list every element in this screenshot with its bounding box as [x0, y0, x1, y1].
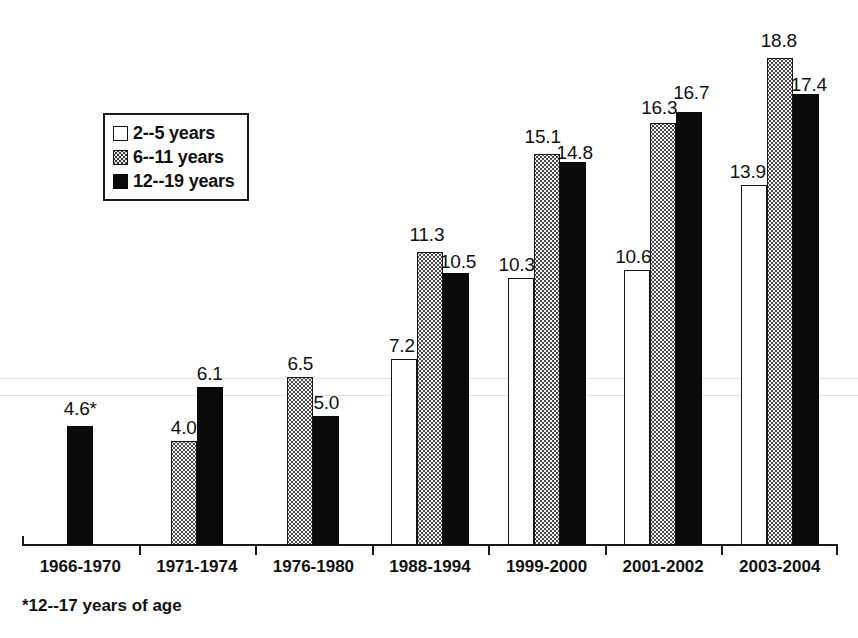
- bar-2003-2004-2-5-years: [741, 185, 767, 545]
- chart-legend: 2--5 years 6--11 years 12--19 years: [103, 113, 249, 201]
- x-axis-tick: [255, 546, 257, 555]
- bar-1971-1974-12-19-years: [197, 387, 223, 545]
- bar-value-label: 5.0: [313, 392, 339, 414]
- x-axis-category-label: 2001-2002: [622, 557, 703, 577]
- x-axis-tick: [721, 546, 723, 555]
- legend-item-6-11-years: 6--11 years: [113, 145, 235, 169]
- chart-footnote: *12--17 years of age: [22, 596, 182, 616]
- filled-square-icon: [113, 174, 128, 189]
- bar-1971-1974-6-11-years: [171, 441, 197, 545]
- bar-1999-2000-2-5-years: [508, 278, 534, 545]
- legend-item-12-19-years: 12--19 years: [113, 169, 235, 193]
- x-axis-tick: [488, 546, 490, 555]
- bar-value-label: 6.5: [287, 353, 313, 375]
- x-axis-category-label: 1971-1974: [156, 557, 237, 577]
- x-axis-category-label: 1976-1980: [273, 557, 354, 577]
- bar-1999-2000-12-19-years: [560, 162, 586, 545]
- hatched-square-icon: [113, 150, 128, 165]
- x-axis-left-cap: [22, 536, 24, 545]
- bar-value-label: 18.8: [761, 30, 797, 52]
- x-axis-category-label: 1988-1994: [389, 557, 470, 577]
- bar-1966-1970-12-19-years: [67, 426, 93, 545]
- bar-1988-1994-6-11-years: [417, 252, 443, 545]
- legend-item-label: 6--11 years: [133, 147, 224, 168]
- bar-2001-2002-6-11-years: [650, 123, 676, 545]
- x-axis-category-label: 1966-1970: [40, 557, 121, 577]
- legend-item-2-5-years: 2--5 years: [113, 121, 235, 145]
- bar-2003-2004-12-19-years: [793, 94, 819, 545]
- bar-1999-2000-6-11-years: [534, 154, 560, 545]
- x-axis-tick: [372, 546, 374, 555]
- bar-value-label: 14.8: [557, 142, 593, 164]
- bar-value-label: 6.1: [197, 363, 223, 385]
- bar-value-label: 16.3: [641, 97, 677, 119]
- bar-value-label: 10.6: [615, 246, 651, 268]
- x-axis-category-label: 1999-2000: [506, 557, 587, 577]
- bar-value-label: 4.6*: [64, 398, 97, 420]
- x-axis-tick: [139, 546, 141, 555]
- bar-value-label: 16.7: [673, 82, 709, 104]
- bar-1976-1980-6-11-years: [287, 377, 313, 545]
- bar-value-label: 13.9: [730, 161, 766, 183]
- bar-value-label: 7.2: [389, 335, 415, 357]
- bar-value-label: 11.3: [410, 224, 445, 246]
- bar-2001-2002-2-5-years: [624, 270, 650, 545]
- x-axis-right-cap: [836, 546, 838, 555]
- open-square-icon: [113, 126, 128, 141]
- bar-1976-1980-12-19-years: [313, 416, 339, 546]
- x-axis-category-label: 2003-2004: [739, 557, 820, 577]
- bar-1988-1994-12-19-years: [443, 273, 469, 545]
- x-axis-tick: [605, 546, 607, 555]
- bar-1988-1994-2-5-years: [391, 359, 417, 545]
- legend-item-label: 12--19 years: [133, 171, 235, 192]
- bar-2003-2004-6-11-years: [767, 58, 793, 545]
- bar-value-label: 10.3: [499, 254, 535, 276]
- bar-value-label: 17.4: [791, 74, 827, 96]
- legend-item-label: 2--5 years: [133, 123, 215, 144]
- bar-value-label: 4.0: [171, 417, 197, 439]
- bar-chart: 4.6*1966-19704.06.11971-19746.55.01976-1…: [0, 0, 858, 638]
- bar-value-label: 10.5: [440, 251, 476, 273]
- bar-2001-2002-12-19-years: [676, 112, 702, 545]
- bar-value-label: 15.1: [525, 126, 561, 148]
- plot-area: 4.6*1966-19704.06.11971-19746.55.01976-1…: [0, 0, 858, 638]
